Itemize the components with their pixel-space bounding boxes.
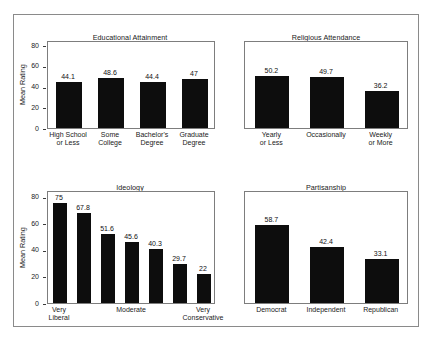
bar-value-label: 58.7	[251, 216, 291, 223]
bar-value-label: 42.4	[306, 238, 346, 245]
bar	[255, 225, 289, 303]
bar-value-label: 33.1	[361, 250, 401, 257]
figure-root: Educational AttainmentMean Rating0204060…	[0, 0, 433, 344]
bar-series-partisanship	[245, 192, 407, 303]
bar	[365, 259, 399, 303]
bar	[310, 247, 344, 303]
plot-area-partisanship	[244, 191, 408, 304]
x-tick-label-line: Republican	[347, 306, 415, 314]
x-tick-label: Republican	[347, 306, 415, 314]
chart-panel-partisanship: Partisanship58.742.433.1DemocratIndepend…	[0, 0, 433, 344]
